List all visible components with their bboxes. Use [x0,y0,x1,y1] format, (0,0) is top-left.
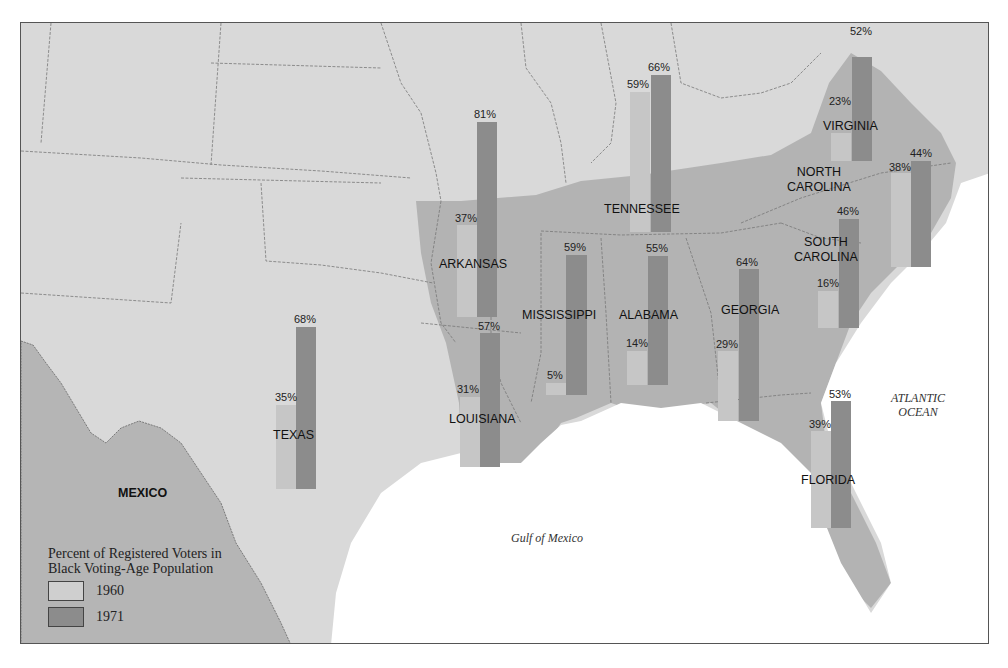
state-label-louisiana: LOUISIANA [449,412,516,427]
pct-mississippi-1960: 5% [547,369,563,381]
pct-north-carolina-1960: 38% [889,161,911,173]
pct-mississippi-1971: 59% [564,241,586,253]
pct-louisiana-1960: 31% [457,383,479,395]
mexico-label: MEXICO [118,486,167,500]
bar-virginia-1960 [831,133,851,161]
pct-florida-1971: 53% [829,388,851,400]
legend-swatch-1971 [48,607,84,627]
bar-arkansas-1971 [477,122,497,317]
atlantic-line1: ATLANTIC [883,391,953,405]
legend-item-1971: 1971 [48,606,222,628]
bar-georgia-1960 [718,351,738,421]
north-carolina-line1: NORTH [787,165,851,180]
atlantic-line2: OCEAN [883,405,953,419]
north-carolina-line2: CAROLINA [787,180,851,195]
south-carolina-line1: SOUTH [794,235,858,250]
state-label-texas: TEXAS [273,428,314,443]
bar-florida-1971 [831,401,851,528]
pct-south-carolina-1971: 46% [837,205,859,217]
legend-item-1960: 1960 [48,580,222,602]
pct-georgia-1971: 64% [736,256,758,268]
legend-label-1971: 1971 [96,609,124,625]
pct-arkansas-1960: 37% [455,212,477,224]
pct-alabama-1971: 55% [646,242,668,254]
south-carolina-line2: CAROLINA [794,250,858,265]
bar-texas-1971 [296,327,316,489]
state-label-alabama: ALABAMA [619,308,678,323]
pct-north-carolina-1971: 44% [910,147,932,159]
bar-mississippi-1971 [566,255,587,395]
legend-title-line1: Percent of Registered Voters in [48,546,222,561]
bar-texas-1960 [276,405,296,489]
state-label-arkansas: ARKANSAS [439,257,507,272]
pct-florida-1960: 39% [809,418,831,430]
pct-virginia-1960: 23% [829,95,851,107]
pct-texas-1960: 35% [275,391,297,403]
bar-louisiana-1971 [480,333,500,467]
state-label-virginia: VIRGINIA [823,119,878,134]
legend-title-line2: Black Voting-Age Population [48,561,222,576]
state-label-mississippi: MISSISSIPPI [522,308,596,323]
state-label-south-carolina: SOUTH CAROLINA [794,235,858,265]
state-label-north-carolina: NORTH CAROLINA [787,165,851,195]
bar-georgia-1971 [739,269,759,421]
bar-virginia-1971 [852,57,872,161]
legend-label-1960: 1960 [96,583,124,599]
pct-louisiana-1971: 57% [478,320,500,332]
atlantic-ocean-label: ATLANTIC OCEAN [883,391,953,419]
legend: Percent of Registered Voters in Black Vo… [48,546,222,628]
pct-georgia-1960: 29% [716,338,738,350]
pct-tennessee-1960: 59% [627,78,649,90]
bar-north-carolina-1960 [891,173,911,267]
bar-north-carolina-1971 [911,161,931,267]
state-label-georgia: GEORGIA [721,303,779,318]
bar-alabama-1960 [627,351,647,385]
state-label-tennessee: TENNESSEE [604,202,680,217]
pct-alabama-1960: 14% [626,337,648,349]
gulf-of-mexico-label: Gulf of Mexico [511,531,583,545]
bar-louisiana-1960 [460,397,480,467]
pct-arkansas-1971: 81% [474,108,496,120]
bar-mississippi-1960 [546,383,566,395]
pct-virginia-1971: 52% [850,25,872,37]
pct-south-carolina-1960: 16% [817,277,839,289]
legend-swatch-1960 [48,581,84,601]
pct-texas-1971: 68% [294,313,316,325]
state-label-florida: FLORIDA [801,473,855,488]
pct-tennessee-1971: 66% [648,61,670,73]
bar-south-carolina-1960 [818,291,838,328]
